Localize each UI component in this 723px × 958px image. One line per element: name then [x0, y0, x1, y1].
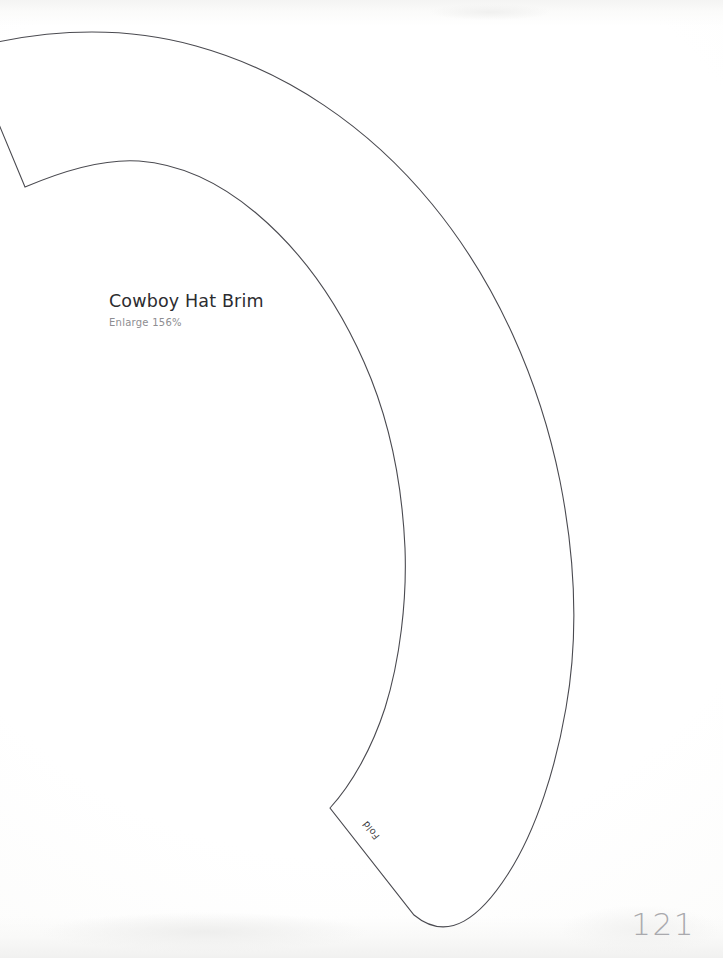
pattern-label-block: Cowboy Hat Brim Enlarge 156%	[109, 292, 264, 328]
page-title: Cowboy Hat Brim	[109, 292, 264, 310]
brim-outline-path	[0, 32, 574, 927]
pattern-page: Cowboy Hat Brim Enlarge 156% Fold 121	[0, 0, 723, 958]
page-number: 121	[631, 909, 695, 940]
cowboy-hat-brim-pattern-shape	[0, 0, 723, 958]
enlarge-instruction: Enlarge 156%	[109, 317, 264, 328]
